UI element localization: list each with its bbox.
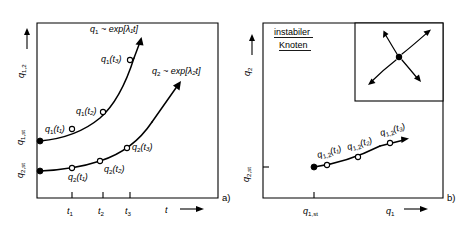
panel-a-xtick-label-2: t3 xyxy=(125,206,132,217)
data-point-q1q2-t1 xyxy=(324,162,329,167)
data-point-q1q2-t3 xyxy=(387,140,392,145)
panel-a: q1,2 q1,st q2,st t1 t2 xyxy=(15,23,230,217)
curve-q1q2-arrow xyxy=(380,137,409,147)
panel-a-xticks xyxy=(72,192,130,198)
data-label-q1q2-t3: q1,2(t₃) xyxy=(379,121,407,139)
data-label-q1-t3: q1(t₃) xyxy=(101,54,122,65)
panel-a-xaxis-arrow xyxy=(180,206,204,212)
inset-phase-portrait xyxy=(355,23,443,101)
panel-a-yaxis-arrow xyxy=(24,28,30,49)
svg-text:q1,2: q1,2 xyxy=(16,64,27,78)
figure-svg: q1,2 q1,st q2,st t1 t2 xyxy=(0,0,476,227)
panel-b-ylabel: q2 xyxy=(242,67,253,76)
inset-fixed-point xyxy=(396,54,402,60)
inset-frame xyxy=(355,23,443,101)
svg-text:q1,2(t₃): q1,2(t₃) xyxy=(379,121,407,139)
panel-a-ytick-label-1: q2,st xyxy=(15,163,26,178)
data-label-q2-t1: q2(t₁) xyxy=(68,172,88,183)
panel-a-ytick-label-0: q1,st xyxy=(15,130,26,145)
panel-a-xtick-label-0: t1 xyxy=(67,206,74,217)
panel-b: q2 q2,st q1,st q1 instabiler Knot xyxy=(241,23,455,217)
annotation-q2-exp: q2 ~ exp[λ₂t] xyxy=(152,66,201,77)
panel-b-xlabel: q1 xyxy=(386,206,395,217)
panel-a-label: a) xyxy=(222,192,230,203)
start-point-q2 xyxy=(37,168,43,174)
data-point-q2-t1 xyxy=(69,165,74,170)
panel-b-yaxis-arrow xyxy=(249,34,255,55)
svg-text:q1,st: q1,st xyxy=(15,130,26,145)
data-label-q2-t3: q2(t₃) xyxy=(132,142,153,153)
data-label-q1q2-t1: q1,2(t₁) xyxy=(316,143,343,161)
panel-b-label: b) xyxy=(447,192,455,203)
annotation-instabiler: instabiler xyxy=(274,27,310,37)
data-point-q2-t3 xyxy=(124,145,129,150)
curve-q2-arrow xyxy=(152,81,181,122)
data-point-q2-t2 xyxy=(97,158,102,163)
data-point-q1-t1 xyxy=(69,126,74,131)
start-point-q1 xyxy=(37,138,43,144)
annotation-knoten: Knoten xyxy=(279,40,308,50)
data-point-q1q2-t2 xyxy=(355,154,360,159)
panel-a-ylabel: q1,2 xyxy=(16,64,27,78)
panel-b-xaxis-arrow xyxy=(404,206,428,212)
svg-text:q2: q2 xyxy=(242,67,253,76)
figure-container: q1,2 q1,st q2,st t1 t2 xyxy=(0,0,476,227)
data-label-q1-t1: q1(t₁) xyxy=(45,124,65,135)
svg-text:q1,2(t₁): q1,2(t₁) xyxy=(316,143,343,161)
panel-a-frame xyxy=(37,23,218,198)
data-label-q2-t2: q2(t₂) xyxy=(104,164,124,175)
panel-a-xtick-label-1: t2 xyxy=(98,206,105,217)
start-point-q1q2 xyxy=(311,164,317,170)
panel-a-xlabel: t xyxy=(165,205,168,215)
curve-q1-arrow xyxy=(134,37,144,58)
panel-b-xtick-label: q1,st xyxy=(303,206,318,217)
data-point-q1-t3 xyxy=(127,57,132,62)
svg-text:q2,st: q2,st xyxy=(241,167,252,182)
annotation-q1-exp: q1 ~ exp[λ₁t] xyxy=(90,24,139,35)
svg-text:q2,st: q2,st xyxy=(15,163,26,178)
data-label-q1-t2: q1(t₂) xyxy=(76,106,96,117)
panel-b-ytick-label: q2,st xyxy=(241,167,252,182)
data-point-q1-t2 xyxy=(100,109,105,114)
